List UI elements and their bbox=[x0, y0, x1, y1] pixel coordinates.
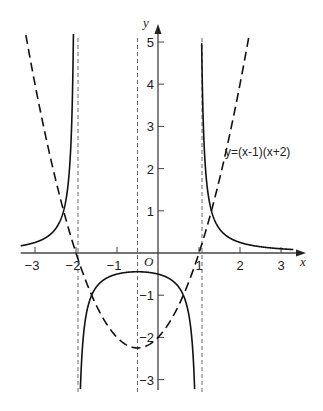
y-tick-label: 4 bbox=[147, 77, 154, 92]
x-tick-label: −1 bbox=[107, 258, 122, 273]
equation-annotation: y=(x-1)(x+2) bbox=[225, 145, 290, 159]
x-tick-label: 3 bbox=[277, 258, 284, 273]
origin-label: O bbox=[144, 254, 154, 269]
y-tick-label: 2 bbox=[147, 162, 154, 177]
x-axis-label: x bbox=[299, 254, 306, 269]
y-tick-label: −1 bbox=[139, 288, 154, 303]
y-axis-label: y bbox=[141, 15, 149, 30]
y-tick-label: −3 bbox=[139, 373, 154, 388]
solid-curve-reciprocal bbox=[80, 272, 194, 389]
y-tick-label: 5 bbox=[147, 35, 154, 50]
y-axis-arrow-icon bbox=[155, 24, 162, 34]
x-tick-label: −3 bbox=[25, 258, 40, 273]
axes bbox=[21, 24, 306, 390]
function-plot: −3−2−112354321−1−2−3 y=(x-1)(x+2) x y O bbox=[0, 0, 323, 411]
y-tick-label: 1 bbox=[147, 204, 154, 219]
curves bbox=[21, 34, 294, 389]
y-tick-label: 3 bbox=[147, 119, 154, 134]
solid-curve-reciprocal bbox=[21, 34, 74, 246]
x-tick-label: 2 bbox=[236, 258, 243, 273]
